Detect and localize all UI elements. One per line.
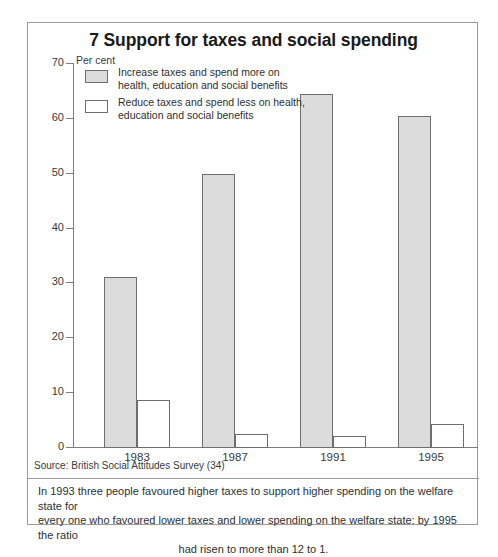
footnote-text: In 1993 three people favoured higher tax… [38, 484, 469, 557]
y-tick-label-40: 40 [36, 221, 64, 233]
y-tick-label-50: 50 [36, 166, 64, 178]
x-tick-label-1995: 1995 [396, 451, 466, 463]
bar-increase-1995 [398, 116, 431, 448]
bar-increase-1991 [300, 94, 333, 448]
legend-label-reduce: Reduce taxes and spend less on health, e… [118, 96, 305, 121]
footnote-divider [28, 478, 479, 479]
legend-item-reduce: Reduce taxes and spend less on health, e… [85, 98, 345, 128]
y-tick-20 [66, 337, 74, 338]
y-tick-60 [66, 118, 74, 119]
footnote-line-3: had risen to more than 12 to 1. [38, 542, 469, 557]
bar-reduce-1987 [235, 434, 268, 448]
y-tick-label-30: 30 [36, 275, 64, 287]
y-tick-label-20: 20 [36, 330, 64, 342]
source-note: Source: British Social Attitudes Survey … [34, 460, 225, 471]
chart-legend: Increase taxes and spend more on health,… [85, 68, 345, 128]
y-tick-label-10: 10 [36, 385, 64, 397]
bar-increase-1983 [104, 277, 137, 448]
y-tick-30 [66, 282, 74, 283]
y-tick-50 [66, 173, 74, 174]
x-tick-label-1991: 1991 [298, 451, 368, 463]
bar-reduce-1991 [333, 436, 366, 448]
y-tick-label-0: 0 [36, 440, 64, 452]
y-tick-70 [66, 63, 74, 64]
y-tick-10 [66, 392, 74, 393]
y-tick-0 [66, 447, 74, 448]
legend-label-increase: Increase taxes and spend more on health,… [118, 66, 288, 91]
y-axis-line [73, 63, 74, 447]
legend-swatch-reduce-icon [85, 100, 108, 113]
legend-swatch-increase-icon [85, 70, 108, 83]
y-tick-40 [66, 228, 74, 229]
footnote-line-1: In 1993 three people favoured higher tax… [38, 484, 469, 513]
bar-reduce-1995 [431, 424, 464, 448]
y-tick-label-70: 70 [36, 56, 64, 68]
figure-frame: 7 Support for taxes and social spending … [27, 22, 478, 525]
bar-reduce-1983 [137, 400, 170, 448]
y-tick-label-60: 60 [36, 111, 64, 123]
legend-item-increase: Increase taxes and spend more on health,… [85, 68, 345, 98]
bar-increase-1987 [202, 174, 235, 448]
footnote-line-2: every one who favoured lower taxes and l… [38, 513, 469, 542]
